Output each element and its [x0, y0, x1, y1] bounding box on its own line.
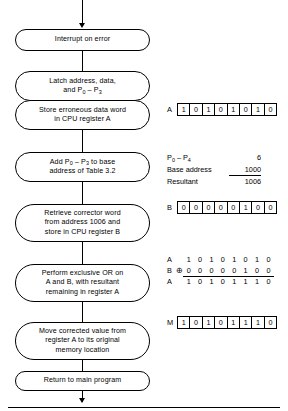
bit-digit: 1 [229, 255, 240, 266]
flow-node-add: Add P0 – P3 to baseaddress of Table 3.2 [15, 152, 150, 182]
bit-cell: 0 [239, 103, 252, 116]
bit-cell: 1 [202, 103, 215, 116]
xor-operation-block: A 1 0 1 0 1 0 1 0 B ⊕ 0 0 0 0 0 1 [167, 255, 274, 288]
bit-cell: 0 [214, 201, 227, 214]
bit-cell: 0 [264, 201, 277, 214]
bit-digit: 1 [240, 277, 251, 288]
xor-operand-a-label: A [167, 255, 175, 266]
bit-digit: 0 [206, 266, 217, 277]
memory-word-row: M 1 0 1 0 1 1 1 0 [167, 316, 277, 329]
flow-node-xor: Perform exclusive OR on A and B, with re… [15, 264, 150, 302]
bit-cell: 0 [202, 201, 215, 214]
entry-connector-line [82, 0, 83, 25]
bit-cell: 0 [251, 201, 264, 214]
bit-digit: 0 [194, 277, 205, 288]
xor-operand-a-digits: 1 0 1 0 1 0 1 0 [183, 255, 274, 266]
xor-result-row: A 1 0 1 0 1 1 1 0 [167, 277, 274, 288]
bit-cell: 0 [214, 316, 227, 329]
register-a-initial-label: A [167, 105, 177, 114]
bit-digit: 0 [263, 277, 274, 288]
calc-row-base: Base address 1000 [167, 164, 261, 175]
calc-row-resultant: Resultant 1006 [167, 175, 261, 187]
flowchart-page: Interrupt on error Latch address, data,a… [0, 0, 288, 411]
bit-digit: 1 [240, 266, 251, 277]
xor-result-digits: 1 0 1 0 1 1 1 0 [183, 277, 274, 288]
bit-cell: 0 [189, 201, 202, 214]
address-calculation-block: P0 – P4 6 Base address 1000 Resultant 10… [167, 152, 261, 187]
flow-node-move: Move corrected value from register A to … [15, 322, 150, 360]
bit-cell: 1 [251, 316, 264, 329]
memory-word-cells: 1 0 1 0 1 1 1 0 [177, 316, 277, 329]
bit-cell: 0 [264, 103, 277, 116]
bit-digit: 0 [194, 266, 205, 277]
connector-5 [82, 242, 83, 264]
bit-digit: 0 [217, 255, 228, 266]
bit-digit: 0 [240, 255, 251, 266]
flow-node-store: Store erroneous data word in CPU registe… [15, 100, 150, 130]
bottom-divider [8, 407, 280, 408]
calc-value-resultant: 1006 [229, 175, 261, 187]
xor-operand-b-digits: 0 0 0 0 0 1 0 0 [183, 266, 274, 277]
xor-operand-b-label: B [167, 266, 175, 277]
calc-label-parity: P0 – P4 [167, 152, 229, 164]
bit-cell: 0 [264, 316, 277, 329]
calc-value-parity: 6 [229, 152, 261, 163]
bit-digit: 0 [251, 266, 262, 277]
bit-digit: 1 [251, 255, 262, 266]
bit-digit: 0 [229, 266, 240, 277]
flow-node-return: Return to main program [15, 371, 150, 391]
bit-digit: 1 [206, 255, 217, 266]
calc-label-base: Base address [167, 164, 229, 175]
calc-value-base: 1000 [229, 164, 261, 175]
bit-cell: 0 [214, 103, 227, 116]
xor-operand-a-row: A 1 0 1 0 1 0 1 0 [167, 255, 274, 266]
xor-result-label: A [167, 277, 175, 288]
connector-4 [82, 182, 83, 204]
bit-digit: 1 [251, 277, 262, 288]
bit-digit: 0 [183, 266, 194, 277]
bit-cell: 1 [202, 316, 215, 329]
register-b-cells: 0 0 0 0 0 1 0 0 [177, 201, 277, 214]
bit-cell: 1 [227, 103, 240, 116]
connector-1 [82, 51, 83, 71]
register-b-row: B 0 0 0 0 0 1 0 0 [167, 201, 277, 214]
bit-cell: 1 [177, 316, 190, 329]
bit-digit: 0 [217, 266, 228, 277]
connector-3 [82, 130, 83, 152]
calc-label-resultant: Resultant [167, 176, 229, 187]
bit-digit: 1 [229, 277, 240, 288]
bit-digit: 1 [183, 255, 194, 266]
bit-cell: 1 [251, 103, 264, 116]
connector-6 [82, 302, 83, 322]
connector-7 [82, 360, 83, 371]
bit-cell: 1 [177, 103, 190, 116]
xor-operand-b-row: B ⊕ 0 0 0 0 0 1 0 0 [167, 266, 274, 277]
bit-cell: 1 [239, 316, 252, 329]
bit-cell: 0 [189, 103, 202, 116]
flow-node-add-label: Add P0 – P3 to baseaddress of Table 3.2 [49, 158, 115, 177]
register-b-label: B [167, 203, 177, 212]
bit-digit: 0 [194, 255, 205, 266]
xor-operator-icon: ⊕ [175, 266, 183, 277]
register-a-initial-row: A 1 0 1 0 1 0 1 0 [167, 103, 277, 116]
bit-digit: 1 [183, 277, 194, 288]
bit-cell: 0 [227, 201, 240, 214]
bit-digit: 0 [217, 277, 228, 288]
memory-word-label: M [167, 318, 177, 327]
register-a-initial-cells: 1 0 1 0 1 0 1 0 [177, 103, 277, 116]
calc-row-parity: P0 – P4 6 [167, 152, 261, 164]
flow-node-interrupt: Interrupt on error [15, 29, 150, 51]
bit-digit: 0 [263, 266, 274, 277]
flow-node-retrieve: Retrieve corrector word from address 100… [15, 204, 150, 242]
entry-arrow-icon [79, 23, 85, 28]
flow-node-latch: Latch address, data,and P0 – P3 [15, 71, 150, 101]
bit-digit: 0 [263, 255, 274, 266]
flow-node-latch-label: Latch address, data,and P0 – P3 [49, 77, 116, 96]
bit-digit: 1 [206, 277, 217, 288]
bit-cell: 1 [239, 201, 252, 214]
exit-arrow-icon [79, 398, 85, 403]
bit-cell: 1 [227, 316, 240, 329]
bit-cell: 0 [177, 201, 190, 214]
bit-cell: 0 [189, 316, 202, 329]
